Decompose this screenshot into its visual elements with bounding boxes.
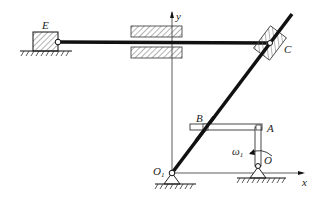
label-a: A (266, 122, 274, 134)
bar-ba (190, 124, 262, 130)
label-b: B (196, 112, 203, 124)
rod-ec (58, 42, 270, 43)
label-omega: ω1 (232, 145, 243, 159)
mechanism-diagram: E y x C B A ω1 (0, 0, 323, 203)
pin-e (55, 39, 61, 45)
label-c: C (284, 43, 292, 55)
pin-c (268, 41, 273, 46)
pin-a (256, 125, 261, 130)
slider-e (33, 32, 58, 51)
ground-e (20, 51, 72, 56)
x-axis (172, 171, 305, 175)
guide-top (131, 26, 182, 37)
label-y: y (175, 10, 181, 22)
label-o: O (264, 154, 272, 166)
guide-bottom (131, 47, 182, 58)
label-e: E (41, 19, 49, 31)
crank-oa (255, 127, 261, 166)
label-x: x (301, 176, 307, 188)
label-o1: O1 (153, 165, 164, 179)
